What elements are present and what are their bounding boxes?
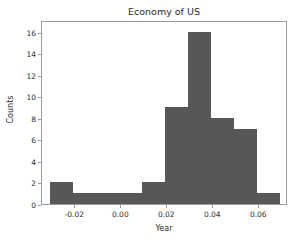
histogram-bar bbox=[211, 118, 234, 204]
y-axis-tick-label: 10 bbox=[26, 93, 36, 102]
x-axis-tick-mark bbox=[258, 205, 259, 208]
histogram-bar bbox=[142, 182, 165, 204]
y-axis-tick-label: 12 bbox=[26, 71, 36, 80]
x-axis-tick-label: 0.00 bbox=[112, 210, 129, 219]
histogram-bar bbox=[96, 193, 119, 204]
x-axis-tick-label: 0.04 bbox=[204, 210, 221, 219]
y-axis-ticks: 0246810121416 bbox=[0, 21, 41, 205]
histogram-bar bbox=[188, 32, 211, 204]
chart-title: Economy of US bbox=[41, 6, 287, 18]
histogram-bar bbox=[119, 193, 142, 204]
y-axis-tick-label: 0 bbox=[31, 201, 36, 210]
histogram-bar bbox=[257, 193, 280, 204]
y-axis-tick-label: 16 bbox=[26, 28, 36, 37]
histogram-bars bbox=[42, 22, 286, 204]
y-axis-tick-label: 4 bbox=[31, 157, 36, 166]
histogram-bar bbox=[50, 182, 73, 204]
y-axis-tick-label: 14 bbox=[26, 50, 36, 59]
x-axis-ticks: -0.020.000.020.040.06 bbox=[41, 205, 287, 223]
y-axis-tick-label: 6 bbox=[31, 136, 36, 145]
x-axis-label: Year bbox=[41, 224, 287, 233]
x-axis-tick-mark bbox=[74, 205, 75, 208]
y-axis-tick-label: 2 bbox=[31, 179, 36, 188]
x-axis-tick-label: 0.02 bbox=[158, 210, 175, 219]
x-axis-tick-mark bbox=[212, 205, 213, 208]
chart-figure: Economy of US Counts 0246810121416 -0.02… bbox=[0, 0, 303, 244]
histogram-bar bbox=[234, 129, 257, 204]
histogram-bar bbox=[165, 107, 188, 204]
x-axis-tick-mark bbox=[120, 205, 121, 208]
x-axis-tick-label: 0.06 bbox=[250, 210, 267, 219]
x-axis-tick-mark bbox=[166, 205, 167, 208]
histogram-bar bbox=[73, 193, 96, 204]
x-axis-tick-label: -0.02 bbox=[65, 210, 84, 219]
plot-area bbox=[41, 21, 287, 205]
y-axis-tick-label: 8 bbox=[31, 114, 36, 123]
